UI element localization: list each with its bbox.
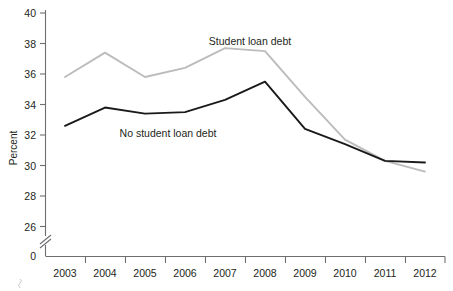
x-tick-label-2005: 2005 — [133, 267, 157, 279]
y-tick-label-40: 40 — [24, 7, 36, 19]
source-note-partial-glyph — [19, 279, 22, 288]
x-tick-label-2008: 2008 — [253, 267, 277, 279]
x-tick-label-2009: 2009 — [293, 267, 317, 279]
y-tick-label-36: 36 — [24, 68, 36, 80]
y-tick-marks — [40, 13, 46, 227]
series-line-no-student-loan-debt — [65, 82, 425, 163]
chart-container: Percent 40 38 36 34 32 30 28 26 0 — [0, 0, 453, 291]
y-tick-label-38: 38 — [24, 38, 36, 50]
x-tick-label-2007: 2007 — [213, 267, 237, 279]
line-chart: Percent 40 38 36 34 32 30 28 26 0 — [0, 0, 453, 291]
x-tick-label-2006: 2006 — [173, 267, 197, 279]
y-tick-label-30: 30 — [24, 160, 36, 172]
x-tick-label-2010: 2010 — [333, 267, 357, 279]
x-tick-label-2012: 2012 — [413, 267, 437, 279]
y-axis-title: Percent — [8, 131, 19, 166]
x-tick-label-2003: 2003 — [53, 267, 77, 279]
series-annotation-no-student-loan-debt: No student loan debt — [120, 127, 217, 139]
series-annotation-student-loan-debt: Student loan debt — [209, 35, 291, 47]
y-tick-label-28: 28 — [24, 190, 36, 202]
x-tick-label-2004: 2004 — [93, 267, 117, 279]
y-tick-label-32: 32 — [24, 129, 36, 141]
y-tick-label-34: 34 — [24, 99, 36, 111]
y-tick-label-0: 0 — [30, 250, 36, 262]
y-tick-label-26: 26 — [24, 221, 36, 233]
x-tick-label-2011: 2011 — [374, 267, 397, 279]
x-tick-marks — [86, 257, 446, 264]
